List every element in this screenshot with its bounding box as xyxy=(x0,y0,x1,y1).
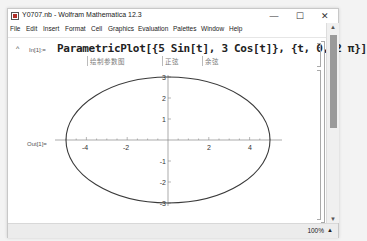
svg-text:-2: -2 xyxy=(160,179,166,186)
title-bar: Y0707.nb - Wolfram Mathematica 12.3 — ☐ … xyxy=(8,9,338,23)
vertical-scrollbar[interactable]: ▲ ▼ xyxy=(326,23,339,223)
svg-text:-1: -1 xyxy=(160,158,166,165)
scrollbar-thumb[interactable] xyxy=(330,35,337,128)
svg-text:-4: -4 xyxy=(82,144,88,151)
menu-help[interactable]: Help xyxy=(229,25,242,32)
svg-text:4: 4 xyxy=(248,144,252,151)
notebook-area[interactable]: ^ In[1]:= ParametricPlot[{5 Sin[t], 3 Co… xyxy=(8,37,326,224)
menu-window[interactable]: Window xyxy=(201,25,224,32)
mathematica-window: Y0707.nb - Wolfram Mathematica 12.3 — ☐ … xyxy=(7,8,339,238)
close-button[interactable]: ✕ xyxy=(312,9,338,23)
zoom-level[interactable]: 100% xyxy=(307,227,324,234)
svg-text:2: 2 xyxy=(207,144,211,151)
scroll-up-icon[interactable]: ▲ xyxy=(327,23,339,31)
menu-file[interactable]: File xyxy=(10,25,20,32)
menu-graphics[interactable]: Graphics xyxy=(108,25,134,32)
menu-cell[interactable]: Cell xyxy=(91,25,102,32)
svg-text:1: 1 xyxy=(162,116,166,123)
menu-bar: File Edit Insert Format Cell Graphics Ev… xyxy=(8,25,338,35)
mathematica-app-icon xyxy=(11,12,19,20)
zoom-menu-icon[interactable]: ▲ xyxy=(327,227,333,233)
svg-text:-2: -2 xyxy=(123,144,129,151)
minimize-button[interactable]: — xyxy=(261,9,287,23)
maximize-button[interactable]: ☐ xyxy=(287,9,313,23)
menu-edit[interactable]: Edit xyxy=(26,25,37,32)
svg-text:2: 2 xyxy=(162,95,166,102)
group-cell-bracket[interactable] xyxy=(321,41,325,223)
x-tick-labels: -4 -2 2 4 xyxy=(82,144,252,151)
scroll-down-icon[interactable]: ▼ xyxy=(327,215,339,223)
status-bar: 100% ▲ xyxy=(8,223,338,238)
parametric-plot[interactable]: -4 -2 2 4 3 2 1 -1 -2 -3 xyxy=(8,38,326,224)
menu-insert[interactable]: Insert xyxy=(43,25,59,32)
window-title: Y0707.nb - Wolfram Mathematica 12.3 xyxy=(22,11,142,18)
menu-evaluation[interactable]: Evaluation xyxy=(138,25,168,32)
menu-format[interactable]: Format xyxy=(65,25,86,32)
menu-palettes[interactable]: Palettes xyxy=(173,25,197,32)
